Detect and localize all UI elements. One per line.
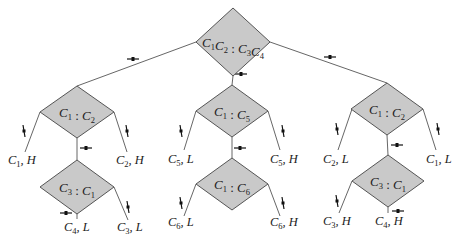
balance-marker-icon	[127, 201, 130, 213]
tree-edge	[387, 135, 388, 155]
comparison-nodes: C1C2 : C3C4C1 : C2C3 : C1C1 : C5C1 : C6C…	[40, 8, 424, 214]
tree-edge	[184, 111, 196, 150]
outcome-leaf: C2, H	[116, 153, 145, 169]
weighing-decision-tree: C1C2 : C3C4C1 : C2C3 : C1C1 : C5C1 : C6C…	[0, 0, 465, 241]
tree-edge	[268, 111, 280, 150]
tree-edge	[270, 42, 387, 83]
outcome-leaf: C6, L	[168, 215, 194, 231]
outcome-leaf: C4, L	[64, 220, 90, 236]
balance-marker-icon	[282, 197, 285, 209]
tree-edge	[114, 112, 127, 152]
outcome-leaf: C5, H	[270, 152, 299, 168]
balance-marker-icon	[180, 125, 183, 137]
tree-edge	[339, 181, 352, 213]
outcome-leaf: C5, L	[168, 152, 194, 168]
outcome-leaf: C1, L	[426, 152, 452, 168]
tree-edge	[77, 42, 196, 86]
comparison-node-left: C1 : C2	[40, 86, 114, 138]
tree-edge	[268, 184, 280, 216]
balance-marker-icon	[127, 57, 139, 61]
tree-edge	[184, 184, 196, 216]
balance-marker-icon	[80, 146, 92, 150]
comparison-node-root: C1C2 : C3C4	[196, 8, 270, 76]
balance-marker-icon	[234, 146, 246, 150]
outcome-leaf: C3, L	[117, 220, 143, 236]
comparison-node-right-low: C3 : C1	[352, 155, 424, 207]
balance-marker-icon	[282, 125, 285, 137]
tree-edge	[25, 112, 40, 152]
comparison-node-right: C1 : C2	[351, 83, 423, 135]
balance-marker-icon	[336, 195, 339, 207]
outcome-leaf: C3, H	[323, 214, 352, 230]
tree-edge	[232, 76, 233, 85]
balance-marker-icon	[336, 123, 339, 135]
comparison-node-mid: C1 : C5	[196, 85, 268, 137]
tree-edge	[338, 109, 352, 150]
balance-marker-icon	[60, 211, 72, 215]
balance-marker-icon	[391, 143, 403, 147]
balance-marker-icon	[23, 125, 26, 137]
balance-marker-icon	[126, 125, 129, 137]
outcome-leaf: C4, H	[375, 214, 404, 230]
decision-tree-canvas: C1C2 : C3C4C1 : C2C3 : C1C1 : C5C1 : C6C…	[0, 0, 465, 241]
tree-edge	[423, 109, 436, 150]
balance-marker-icon	[392, 209, 404, 213]
comparison-node-left-low: C3 : C1	[40, 160, 114, 214]
outcome-leaf: C6, H	[270, 215, 299, 231]
tree-edge	[114, 187, 128, 220]
balance-marker-icon	[437, 123, 440, 135]
comparison-node-mid-low: C1 : C6	[196, 158, 268, 210]
outcome-leaf: C2, L	[323, 152, 349, 168]
balance-marker-icon	[324, 55, 336, 59]
outcome-leaf: C1, H	[8, 153, 37, 169]
balance-marker-icon	[180, 197, 183, 209]
